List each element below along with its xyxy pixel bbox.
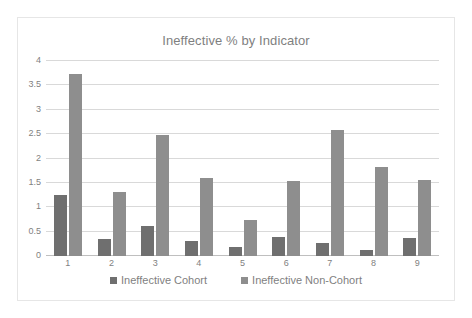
x-axis-tick-label: 5 bbox=[221, 258, 265, 268]
y-axis-tick-label: 4 bbox=[36, 55, 41, 65]
bar bbox=[244, 220, 257, 256]
y-axis-tick-label: 2.5 bbox=[28, 128, 41, 138]
x-axis-tick-label: 9 bbox=[395, 258, 439, 268]
legend-entry[interactable]: Ineffective Non-Cohort bbox=[241, 274, 362, 286]
bar bbox=[272, 237, 285, 256]
y-axis-tick-label: 3.5 bbox=[28, 79, 41, 89]
bar-group bbox=[46, 61, 90, 256]
legend-label: Ineffective Non-Cohort bbox=[252, 274, 362, 286]
legend-entry[interactable]: Ineffective Cohort bbox=[110, 274, 207, 286]
bar bbox=[200, 178, 213, 256]
y-axis-tick-label: 0.5 bbox=[28, 226, 41, 236]
bar bbox=[229, 247, 242, 256]
chart-legend: Ineffective CohortIneffective Non-Cohort bbox=[18, 274, 454, 286]
bar bbox=[185, 241, 198, 256]
bar bbox=[331, 130, 344, 256]
y-axis-tick-label: 0 bbox=[36, 250, 41, 260]
bar-group bbox=[352, 61, 396, 256]
bar-group bbox=[395, 61, 439, 256]
bar-group bbox=[133, 61, 177, 256]
bar-group bbox=[177, 61, 221, 256]
bar bbox=[360, 250, 373, 256]
bar bbox=[98, 239, 111, 256]
x-axis-tick-label: 8 bbox=[352, 258, 396, 268]
y-axis-tick-label: 1.5 bbox=[28, 177, 41, 187]
bar bbox=[375, 167, 388, 256]
y-axis-tick-label: 2 bbox=[36, 153, 41, 163]
bar bbox=[316, 243, 329, 256]
bar-group bbox=[308, 61, 352, 256]
plot-area: 00.511.522.533.54 bbox=[46, 61, 439, 256]
chart-title: Ineffective % by Indicator bbox=[18, 33, 454, 48]
bar bbox=[287, 181, 300, 256]
chart-container: Ineffective % by Indicator 00.511.522.53… bbox=[17, 17, 455, 301]
bar bbox=[403, 238, 416, 256]
bar bbox=[113, 192, 126, 256]
bar-groups bbox=[46, 61, 439, 256]
bar-group bbox=[90, 61, 134, 256]
x-axis-tick-label: 7 bbox=[308, 258, 352, 268]
bar bbox=[141, 226, 154, 256]
y-axis-tick-label: 3 bbox=[36, 104, 41, 114]
x-axis-tick-label: 3 bbox=[133, 258, 177, 268]
bar bbox=[69, 74, 82, 256]
legend-swatch-icon bbox=[241, 277, 248, 284]
legend-label: Ineffective Cohort bbox=[121, 274, 207, 286]
x-axis-tick-labels: 123456789 bbox=[46, 258, 439, 268]
legend-swatch-icon bbox=[110, 277, 117, 284]
x-axis-tick-label: 6 bbox=[264, 258, 308, 268]
bar-group bbox=[221, 61, 265, 256]
y-axis-tick-label: 1 bbox=[36, 201, 41, 211]
bar bbox=[418, 180, 431, 256]
x-axis-tick-label: 4 bbox=[177, 258, 221, 268]
bar bbox=[54, 195, 67, 256]
bar bbox=[156, 135, 169, 256]
bar-group bbox=[264, 61, 308, 256]
x-axis-tick-label: 2 bbox=[90, 258, 134, 268]
x-axis-tick-label: 1 bbox=[46, 258, 90, 268]
